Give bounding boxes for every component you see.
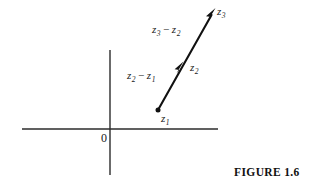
label-difference-z2-z1: z2−z1 [127, 70, 155, 81]
origin-label: 0 [101, 132, 107, 144]
label-z2-z1-left-base: z [127, 69, 131, 81]
label-z3: z3 [217, 6, 225, 17]
label-z3-z2-left-sub: 3 [157, 29, 161, 38]
label-z1: z1 [161, 113, 169, 124]
label-z3-z2-right-base: z [172, 23, 176, 35]
label-z3-base: z [217, 5, 221, 17]
figure-container: z3 z3−z2 z2 z2−z1 z1 0 FIGURE1.6 [0, 0, 310, 188]
point-marker-z1 [156, 108, 161, 113]
figure-caption-number: 1.6 [284, 166, 300, 178]
label-z3-z2-left-base: z [152, 23, 156, 35]
label-z2-z1-left-sub: 2 [132, 75, 136, 84]
label-z3-z2-operator: − [160, 23, 171, 35]
label-z1-base: z [161, 112, 165, 124]
label-z2-z1-operator: − [135, 69, 146, 81]
label-z3-sub: 3 [222, 11, 226, 20]
label-z2-base: z [190, 61, 194, 73]
figure-caption: FIGURE1.6 [234, 167, 300, 179]
label-z2: z2 [190, 62, 198, 73]
figure-caption-word: FIGURE [234, 166, 281, 178]
label-z2-sub: 2 [195, 67, 199, 76]
label-z2-z1-right-base: z [147, 69, 151, 81]
label-difference-z3-z2: z3−z2 [152, 24, 180, 35]
label-z3-z2-right-sub: 2 [177, 29, 181, 38]
arrowhead-z3 [206, 8, 216, 20]
label-z1-sub: 1 [166, 118, 170, 127]
label-z2-z1-right-sub: 1 [152, 75, 156, 84]
